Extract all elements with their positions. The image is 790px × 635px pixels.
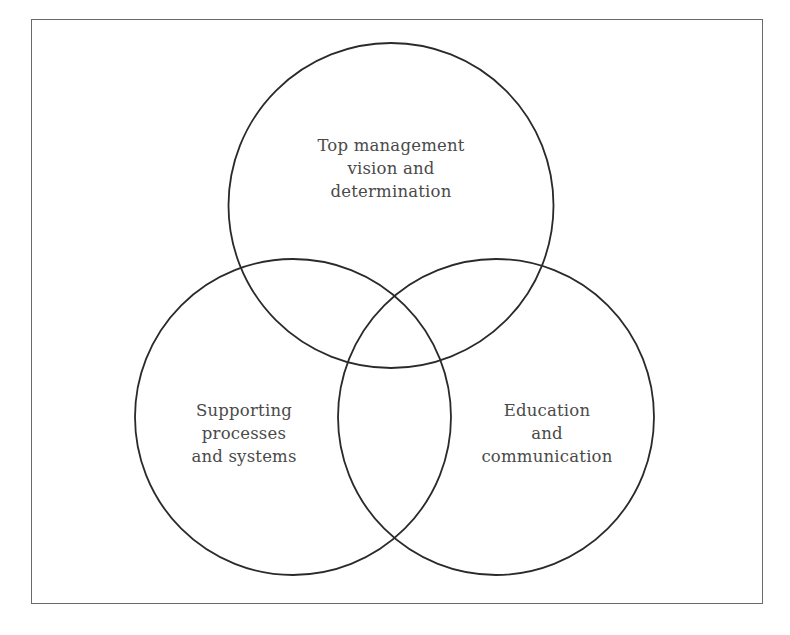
figure-caption-cutoff <box>150 627 650 635</box>
venn-diagram-figure: Top management vision and determination … <box>0 0 790 635</box>
label-line: and systems <box>191 445 296 468</box>
label-line: Supporting <box>191 399 296 422</box>
label-line: vision and <box>317 157 464 180</box>
label-line: determination <box>317 180 464 203</box>
label-supporting-processes: Supporting processes and systems <box>191 399 296 468</box>
label-line: and <box>481 422 612 445</box>
label-top-management: Top management vision and determination <box>317 134 464 203</box>
label-line: communication <box>481 445 612 468</box>
label-education-communication: Education and communication <box>481 399 612 468</box>
label-line: Education <box>481 399 612 422</box>
circle-top-management <box>229 43 554 368</box>
label-line: Top management <box>317 134 464 157</box>
label-line: processes <box>191 422 296 445</box>
venn-circles <box>0 0 790 635</box>
